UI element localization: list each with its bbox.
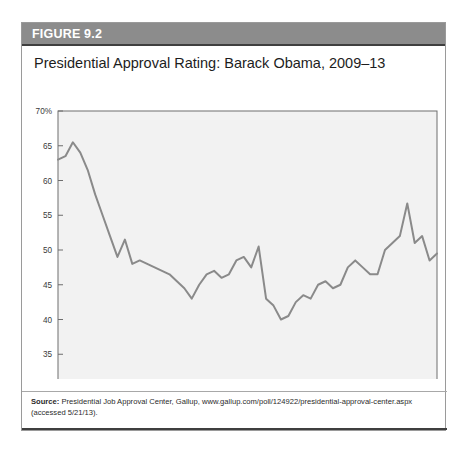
footer-divider: [22, 391, 447, 392]
figure-title: Presidential Approval Rating: Barack Oba…: [34, 55, 385, 71]
y-axis-tick-label: 50: [43, 246, 53, 255]
approval-rating-line-chart: 70%6560555045403530Feb 09Aug 09Feb 10Aug…: [22, 79, 447, 379]
y-axis-tick-label: 65: [43, 142, 53, 151]
figure-card: FIGURE 9.2 Presidential Approval Rating:…: [21, 22, 446, 431]
y-axis-tick-label: 35: [43, 350, 53, 359]
y-axis-tick-label: 55: [43, 211, 53, 220]
chart-area: 70%6560555045403530Feb 09Aug 09Feb 10Aug…: [22, 79, 447, 379]
plot-background: [58, 111, 437, 379]
y-axis-tick-label: 40: [43, 316, 53, 325]
source-note: Source: Presidential Job Approval Center…: [31, 397, 439, 418]
y-axis-tick-label: 60: [43, 177, 53, 186]
y-axis-tick-label: 70%: [36, 107, 52, 116]
y-axis-tick-label: 45: [43, 281, 53, 290]
source-label: Source:: [31, 397, 59, 406]
source-text: Presidential Job Approval Center, Gallup…: [31, 397, 412, 417]
figure-number-label: FIGURE 9.2: [32, 27, 102, 41]
bottom-divider: [22, 428, 447, 430]
figure-header-bar: FIGURE 9.2: [22, 23, 445, 46]
